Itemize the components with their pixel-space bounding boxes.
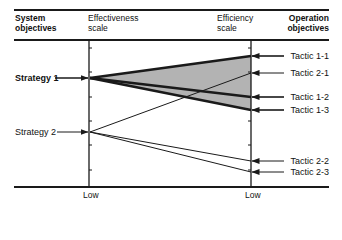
strategy-2-label: Strategy 2	[15, 127, 56, 137]
tactic-2-3-label: Tactic 2-3	[290, 167, 329, 177]
strategy-1-label: Strategy 1	[15, 73, 59, 83]
tactic-1-2-label: Tactic 1-2	[290, 92, 329, 102]
tactic-2-1-label: Tactic 2-1	[290, 68, 329, 78]
link-s2-t22	[90, 132, 251, 161]
effectiveness-low-label: Low	[83, 190, 99, 200]
efficiency-low-label: Low	[245, 190, 261, 200]
tactic-1-3-label: Tactic 1-3	[290, 105, 329, 115]
tactic-1-1-label: Tactic 1-1	[290, 51, 329, 61]
link-s2-t23	[90, 132, 251, 172]
tactic-2-2-label: Tactic 2-2	[290, 156, 329, 166]
